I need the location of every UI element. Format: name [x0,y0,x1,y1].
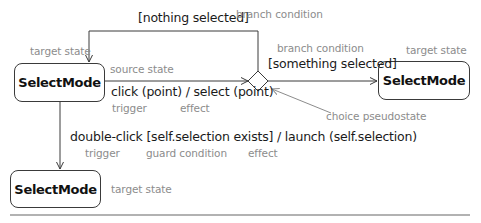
target-state-right-annotation: target state [406,45,467,56]
choice-pointer-arrow [272,89,331,113]
effect-annotation-1: effect [180,103,210,114]
target-state-right-label: SelectMode [383,73,465,88]
source-state-label: SelectMode [18,75,100,90]
something-selected-guard: [something selected] [268,58,397,71]
trigger-annotation-2: trigger [85,148,120,159]
branch-condition-right-label: branch condition [277,43,364,54]
target-state-bottom-label: SelectMode [14,182,96,197]
guard-condition-annotation: guard condition [146,148,227,159]
choice-pseudostate-annotation: choice pseudostate [326,111,426,122]
source-state-box: SelectMode [14,63,105,102]
target-state-top-left-label: target state [30,46,91,57]
target-state-bottom-annotation: target state [111,184,172,195]
target-state-bottom-box: SelectMode [10,170,101,208]
double-click-transition-label: double-click [self.selection exists] / l… [70,131,417,144]
trigger-annotation-1: trigger [112,103,147,114]
source-state-annotation: source state [110,64,174,75]
branch-condition-top-label: branch condition [236,9,323,20]
effect-annotation-2: effect [248,148,278,159]
click-transition-label: click (point) / select (point) [111,86,273,99]
nothing-selected-guard: [nothing selected] [138,12,249,25]
